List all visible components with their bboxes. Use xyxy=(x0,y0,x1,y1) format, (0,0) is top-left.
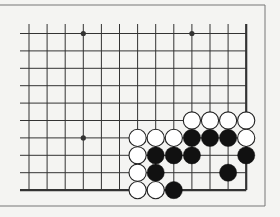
black-stone xyxy=(238,147,255,164)
go-board-diagram xyxy=(0,0,280,217)
star-point xyxy=(81,135,86,140)
white-stone xyxy=(147,129,164,146)
black-stone xyxy=(220,129,237,146)
black-stone xyxy=(220,164,237,181)
black-stone xyxy=(183,147,200,164)
black-stone xyxy=(201,129,218,146)
black-stone xyxy=(147,147,164,164)
black-stone xyxy=(183,129,200,146)
white-stone xyxy=(165,129,182,146)
black-stone xyxy=(165,147,182,164)
white-stone xyxy=(183,112,200,129)
white-stone xyxy=(129,129,146,146)
black-stone xyxy=(147,164,164,181)
star-point xyxy=(81,31,86,36)
white-stone xyxy=(147,182,164,199)
star-point xyxy=(189,31,194,36)
white-stone xyxy=(201,112,218,129)
white-stone xyxy=(129,147,146,164)
white-stone xyxy=(129,164,146,181)
white-stone xyxy=(220,112,237,129)
white-stone xyxy=(129,182,146,199)
black-stone xyxy=(165,182,182,199)
white-stone xyxy=(238,112,255,129)
white-stone xyxy=(238,129,255,146)
